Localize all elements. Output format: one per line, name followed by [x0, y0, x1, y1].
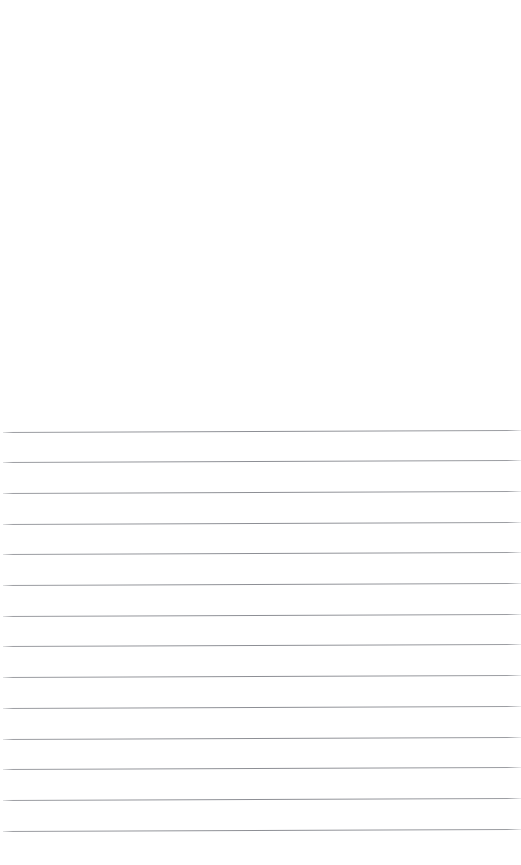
ruled-lines-region	[0, 0, 521, 865]
rule-line	[3, 737, 521, 740]
rule-line	[3, 767, 521, 770]
rule-line	[3, 675, 521, 678]
rule-line	[3, 522, 521, 525]
rule-line	[3, 829, 521, 832]
rule-line	[3, 798, 521, 801]
rule-line	[3, 706, 521, 709]
rule-line	[3, 460, 521, 463]
rule-line	[3, 430, 521, 433]
rule-line	[3, 583, 521, 586]
rule-line	[3, 644, 521, 647]
rule-line	[3, 614, 521, 617]
rule-line	[3, 491, 521, 494]
rule-line	[3, 552, 521, 555]
lined-notepad-page	[0, 0, 521, 865]
